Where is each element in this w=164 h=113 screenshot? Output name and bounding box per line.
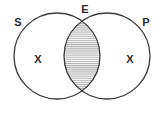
left-set-label: S [14, 16, 21, 28]
venn-diagram-canvas: S E P X X [0, 0, 164, 113]
left-region-mark: X [34, 53, 42, 65]
right-set-label: P [142, 16, 149, 28]
venn-diagram-figure: S E P X X [0, 0, 164, 113]
right-region-mark: X [126, 53, 134, 65]
intersection-label: E [81, 3, 88, 15]
